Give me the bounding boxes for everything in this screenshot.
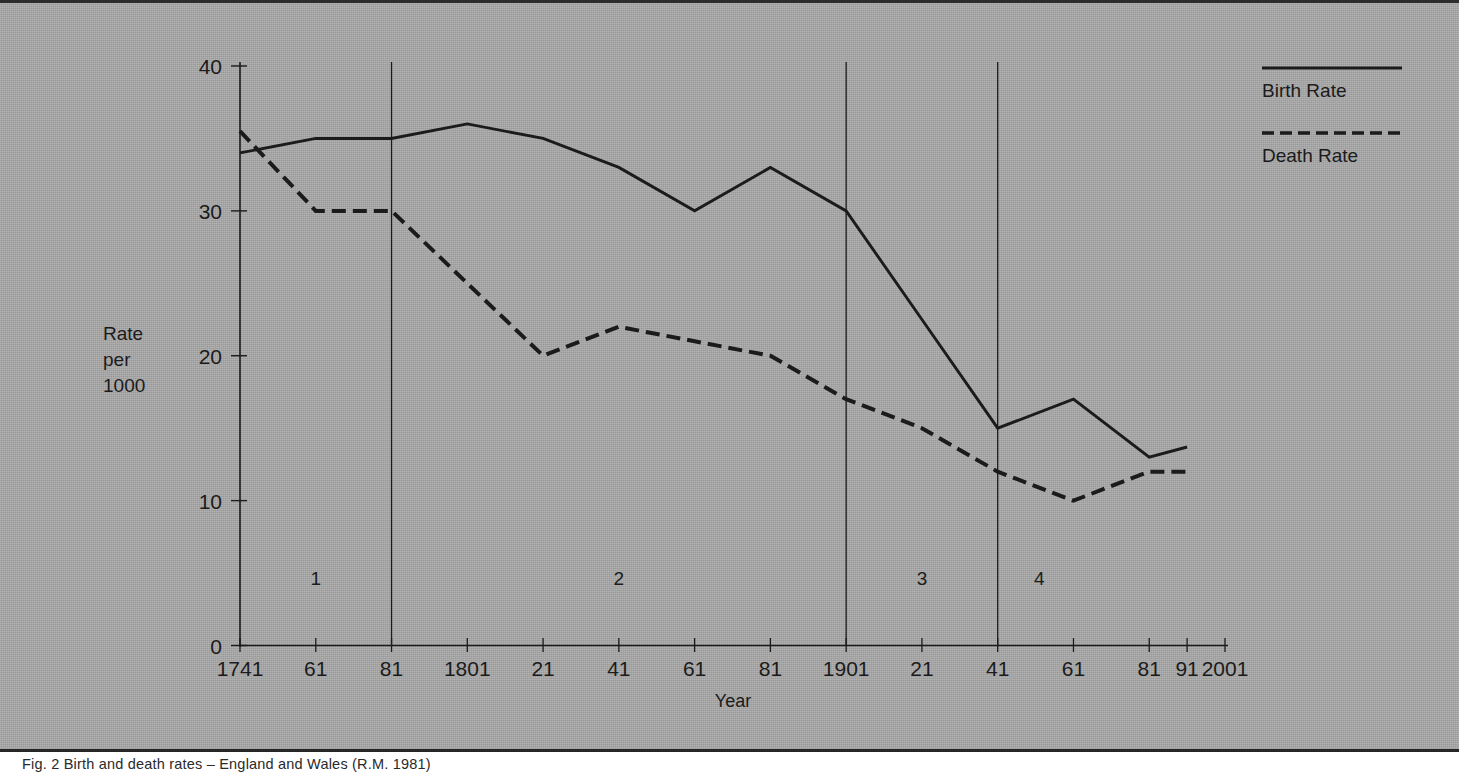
x-tick-label: 81: [759, 657, 782, 680]
y-tick-label: 20: [199, 345, 222, 368]
x-tick-label: 81: [1138, 657, 1161, 680]
y-axis-tick-labels: 010203040: [199, 55, 222, 658]
x-tick-label: 1801: [444, 657, 491, 680]
series-line-birth-rate: [240, 124, 1187, 457]
x-tick-label: 1741: [217, 657, 264, 680]
y-axis-title-line-2: per: [103, 349, 131, 370]
x-tick-label: 41: [986, 657, 1009, 680]
y-tick-label: 0: [210, 635, 222, 658]
x-tick-label: 61: [304, 657, 327, 680]
x-tick-label: 81: [380, 657, 403, 680]
x-tick-label: 61: [1062, 657, 1085, 680]
x-tick-label: 21: [910, 657, 933, 680]
x-axis-tick-labels: 17416181180121416181190121416181912001: [217, 657, 1249, 680]
y-tick-label: 30: [199, 200, 222, 223]
x-tick-label: 21: [531, 657, 554, 680]
stage-label: 2: [614, 568, 625, 589]
figure-caption: Fig. 2 Birth and death rates – England a…: [22, 756, 431, 772]
stage-label: 1: [310, 568, 321, 589]
stage-divider-lines: [392, 62, 998, 645]
stage-label: 3: [917, 568, 928, 589]
y-axis-title-line-3: 1000: [103, 375, 145, 396]
x-tick-label: 2001: [1202, 657, 1249, 680]
x-tick-label: 61: [683, 657, 706, 680]
series-line-death-rate: [240, 131, 1187, 500]
legend-label-death-rate: Death Rate: [1262, 145, 1358, 166]
x-tick-label: 91: [1175, 657, 1198, 680]
legend-label-birth-rate: Birth Rate: [1262, 80, 1346, 101]
stage-number-labels: 1234: [310, 568, 1045, 589]
legend: Birth Rate Death Rate: [1262, 68, 1402, 166]
screenshot-root: 010203040 174161811801214161811901214161…: [0, 0, 1459, 775]
y-tick-label: 40: [199, 55, 222, 78]
stage-label: 4: [1034, 568, 1045, 589]
series-lines: [240, 124, 1187, 501]
x-axis-title: Year: [715, 691, 751, 711]
x-tick-label: 41: [607, 657, 630, 680]
x-tick-label: 1901: [823, 657, 870, 680]
demographic-transition-chart: 010203040 174161811801214161811901214161…: [0, 0, 1459, 752]
y-tick-label: 10: [199, 490, 222, 513]
figure-caption-strip: Fig. 2 Birth and death rates – England a…: [0, 752, 1459, 775]
y-axis-title-line-1: Rate: [103, 323, 143, 344]
